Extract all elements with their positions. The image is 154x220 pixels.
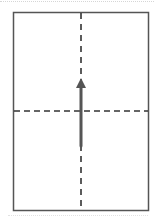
bottom-dotted-rule [8, 215, 148, 216]
paper-fold-diagram [0, 0, 154, 220]
